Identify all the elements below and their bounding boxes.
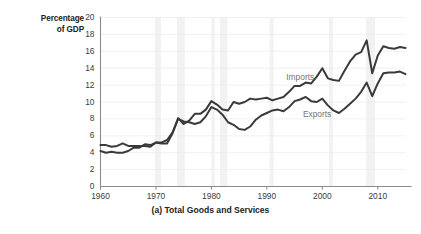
y-tick-label: 16	[73, 47, 95, 56]
chart-figure: Percentage of GDP 02468101214161820 1960…	[0, 0, 421, 234]
figure-caption: (a) Total Goods and Services	[0, 205, 421, 215]
y-tick-label: 12	[73, 81, 95, 90]
y-tick-label: 10	[73, 98, 95, 107]
y-tick-label: 14	[73, 64, 95, 73]
y-tick-label: 18	[73, 30, 95, 39]
x-tick-label: 2010	[358, 192, 398, 201]
x-tick-label: 1960	[81, 192, 121, 201]
y-tick-label: 0	[73, 182, 95, 191]
x-tick-label: 1980	[191, 192, 231, 201]
series-label-exports: Exports	[303, 109, 331, 119]
series-label-imports: Imports	[286, 72, 314, 82]
y-tick-label: 6	[73, 131, 95, 140]
x-tick-label: 2000	[302, 192, 342, 201]
y-tick-label: 20	[73, 13, 95, 22]
y-tick-label: 4	[73, 148, 95, 157]
y-tick-label: 8	[73, 114, 95, 123]
x-tick-label: 1970	[136, 192, 176, 201]
x-tick-label: 1990	[247, 192, 287, 201]
y-tick-label: 2	[73, 165, 95, 174]
